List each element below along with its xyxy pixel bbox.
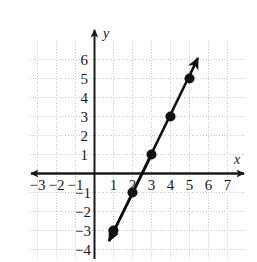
axis-lines bbox=[31, 30, 244, 259]
data-point bbox=[185, 74, 195, 84]
y-tick-labels: 6 5 4 3 2 1 −1 −2 −3 −4 bbox=[75, 52, 91, 258]
x-axis-label: x bbox=[233, 152, 241, 167]
x-tick-label: 3 bbox=[148, 177, 156, 193]
line-segment-up-arrow bbox=[109, 58, 198, 241]
x-tick-label: 5 bbox=[186, 177, 194, 193]
y-tick-label: −3 bbox=[75, 223, 91, 239]
x-tick-label: −2 bbox=[49, 177, 65, 193]
x-tick-label: −3 bbox=[30, 177, 46, 193]
coordinate-plane-figure: y x −3 −2 −1 1 2 3 4 5 6 7 6 5 4 3 2 1 −… bbox=[0, 0, 257, 262]
data-point bbox=[166, 112, 176, 122]
data-point bbox=[128, 188, 138, 198]
y-tick-label: 1 bbox=[81, 147, 89, 163]
plotted-line-series bbox=[109, 58, 198, 241]
data-point bbox=[147, 150, 157, 160]
x-tick-label: 6 bbox=[205, 177, 213, 193]
y-tick-label: 4 bbox=[81, 90, 89, 106]
y-tick-label: 3 bbox=[81, 109, 89, 125]
graph-screenshot: y x −3 −2 −1 1 2 3 4 5 6 7 6 5 4 3 2 1 −… bbox=[0, 0, 257, 262]
x-tick-label: 7 bbox=[224, 177, 232, 193]
x-tick-label: 1 bbox=[110, 177, 118, 193]
data-point bbox=[109, 226, 119, 236]
y-axis-label: y bbox=[101, 26, 110, 41]
y-tick-label: −4 bbox=[75, 242, 91, 258]
y-tick-label: 2 bbox=[81, 128, 89, 144]
grid-lines bbox=[30, 41, 246, 259]
y-tick-label: −1 bbox=[75, 185, 91, 201]
y-tick-label: −2 bbox=[75, 204, 91, 220]
y-tick-label: 6 bbox=[81, 52, 89, 68]
y-tick-label: 5 bbox=[81, 71, 89, 87]
x-tick-label: 4 bbox=[167, 177, 175, 193]
